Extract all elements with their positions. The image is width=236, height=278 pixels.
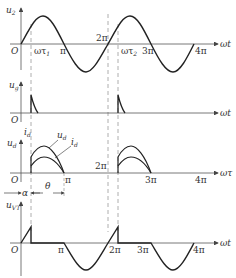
uvt-tick-2pi: 2π [109,246,121,255]
id-ylabel: id [24,128,31,138]
ud-curve-label: ud [57,131,67,141]
ud-label-leader [49,140,58,148]
ug-ylabel: ug [9,81,19,91]
uvt-ylabel-sub: VT [12,204,20,211]
u2-tick-omega-tau2-sub: 2 [133,50,137,57]
id-ylabel-sub: d [27,131,31,138]
ud-curve-label-sub: d [63,134,67,141]
ud-tick-pi: π [65,176,71,185]
ug-pulse-2 [118,95,125,113]
ud-tick-3pi: 3π [145,176,157,185]
u2-origin: O [11,47,18,56]
uvt-xlabel: ωt [220,239,231,248]
id-curve-label-sub: d [74,141,78,148]
panel-uvt [10,202,218,276]
ud-tick-4pi: 4π [195,176,207,185]
id-curve-2 [118,157,151,173]
u2-tick-2pi: 2π [96,34,108,43]
u2-tick-omega-tau2-main: ωτ [121,46,133,56]
u2-xlabel: ωt [220,40,231,49]
ud-ylabel: ud [7,139,17,149]
u2-tick-4pi: 4π [195,47,207,56]
u2-tick-omega-tau2: ωτ2 [121,47,137,57]
ug-ylabel-sub: g [15,84,19,91]
ud-tick-2pi: 2π [95,162,107,171]
id-curve-1 [31,157,64,173]
u2-ylabel: u2 [6,6,16,16]
ug-origin: O [11,116,18,125]
uvt-origin: O [11,246,18,255]
ud-ylabel-sub: d [13,142,17,149]
u2-tick-omega-tau1: ωτ1 [34,47,50,57]
uvt-curve [21,227,194,270]
id-label-leader [55,146,71,158]
ud-origin: O [11,176,18,185]
panel-ud-id [4,140,218,198]
u2-tick-3pi: 3π [142,47,154,56]
uvt-tick-4pi: 4π [193,246,205,255]
uvt-tick-3pi: 3π [137,246,149,255]
u2-ylabel-sub: 2 [12,9,16,16]
panel-u2 [10,8,218,72]
id-curve-label: id [71,138,78,148]
waveform-figure [0,0,236,278]
ud-xlabel: ωτ [220,169,232,178]
u2-tick-pi: π [60,47,66,56]
ud-curve-2 [118,146,151,173]
ud-curve-1 [31,146,64,173]
panel-ug [10,82,218,122]
uvt-tick-pi: π [58,246,64,255]
u2-tick-omega-tau1-sub: 1 [46,50,50,57]
ug-xlabel: ωt [220,109,231,118]
u2-tick-omega-tau1-main: ωτ [34,46,46,56]
ug-pulse-1 [31,95,38,113]
uvt-ylabel: uVT [6,201,20,211]
alpha-label: α [22,189,28,198]
theta-label: θ [45,182,50,191]
